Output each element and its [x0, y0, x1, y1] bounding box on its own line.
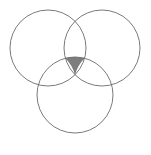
venn-diagram-figure: [0, 0, 151, 155]
venn-diagram-canvas: [0, 0, 151, 155]
figure-background: [0, 0, 151, 155]
